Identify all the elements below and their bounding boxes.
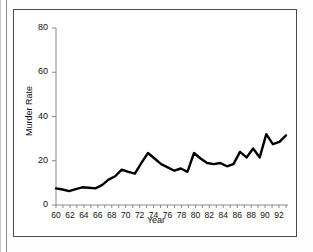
line-chart-canvas xyxy=(14,10,298,238)
data-series xyxy=(56,134,286,191)
x-tick-label: 92 xyxy=(271,210,287,220)
x-axis xyxy=(56,205,288,208)
y-tick-label: 0 xyxy=(26,199,48,209)
page-background: Murder Rate Year 020406080 6062646668707… xyxy=(0,0,313,252)
y-tick-label: 60 xyxy=(26,66,48,76)
page-edge-outer xyxy=(0,0,1,252)
y-axis xyxy=(52,28,56,205)
y-tick-label: 40 xyxy=(26,111,48,121)
page-edge-inner xyxy=(6,0,7,252)
chart-figure-frame: Murder Rate Year 020406080 6062646668707… xyxy=(13,9,297,237)
y-tick-label: 20 xyxy=(26,155,48,165)
y-tick-label: 80 xyxy=(26,22,48,32)
plot-area: Murder Rate Year 020406080 6062646668707… xyxy=(14,10,298,238)
